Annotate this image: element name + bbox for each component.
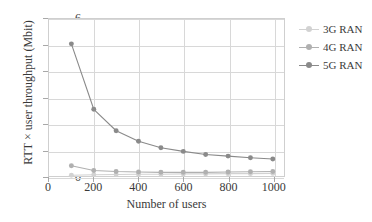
data-point-marker <box>69 173 74 178</box>
data-point-marker <box>69 41 74 46</box>
series-4g-ran <box>69 163 275 174</box>
x-axis-label: Number of users <box>48 198 285 211</box>
legend-label: 4G RAN <box>323 42 362 53</box>
x-axis-tick-mark <box>229 177 230 182</box>
data-point-marker <box>270 157 275 162</box>
series-line <box>71 173 272 175</box>
data-point-marker <box>181 149 186 154</box>
data-point-marker <box>270 169 275 174</box>
data-point-marker <box>136 139 141 144</box>
x-axis-tick-mark <box>138 177 139 182</box>
data-point-marker <box>136 170 141 175</box>
data-point-marker <box>91 168 96 173</box>
legend-marker-dot <box>306 62 312 68</box>
data-point-marker <box>248 155 253 160</box>
data-point-marker <box>114 169 119 174</box>
data-point-marker <box>248 169 253 174</box>
data-point-marker <box>158 145 163 150</box>
data-point-marker <box>69 163 74 168</box>
series-line <box>71 166 272 173</box>
chart-legend: 3G RAN4G RAN5G RAN <box>299 20 371 74</box>
legend-label: 5G RAN <box>323 60 362 71</box>
data-point-marker <box>226 170 231 175</box>
data-point-marker <box>181 170 186 175</box>
legend-swatch-icon <box>299 60 319 70</box>
y-axis-label: RTT × user throughput (Mbit) <box>22 3 35 183</box>
data-point-marker <box>203 152 208 157</box>
x-axis-tick-mark <box>93 177 94 182</box>
x-axis-tick-label: 1000 <box>244 181 304 193</box>
x-axis-tick-mark <box>48 177 49 182</box>
gridline-horizontal <box>49 178 284 179</box>
chart-figure: 0123456 02004006008001000 Number of user… <box>0 0 372 222</box>
legend-item-5g-ran[interactable]: 5G RAN <box>299 56 371 74</box>
data-point-marker <box>114 128 119 133</box>
series-container <box>49 19 284 176</box>
data-point-marker <box>158 170 163 175</box>
plot-area <box>48 18 285 177</box>
legend-label: 3G RAN <box>323 24 362 35</box>
x-axis-tick-mark <box>274 177 275 182</box>
legend-marker-dot <box>306 26 312 32</box>
legend-item-3g-ran[interactable]: 3G RAN <box>299 20 371 38</box>
series-line <box>71 44 272 159</box>
data-point-marker <box>203 170 208 175</box>
legend-marker-dot <box>306 44 312 50</box>
legend-swatch-icon <box>299 24 319 34</box>
series-5g-ran <box>69 41 275 161</box>
data-point-marker <box>226 154 231 159</box>
x-axis-tick-mark <box>183 177 184 182</box>
legend-item-4g-ran[interactable]: 4G RAN <box>299 38 371 56</box>
data-point-marker <box>91 107 96 112</box>
legend-swatch-icon <box>299 42 319 52</box>
